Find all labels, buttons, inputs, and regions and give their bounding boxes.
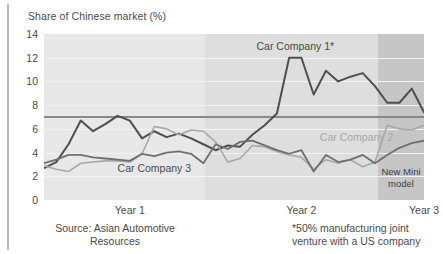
y-tick-label-6: 6 bbox=[16, 123, 38, 135]
y-tick-label-8: 8 bbox=[16, 99, 38, 111]
chart-title: Share of Chinese market (%) bbox=[28, 10, 166, 22]
left-rule-decoration bbox=[7, 4, 9, 250]
y-tick-label-4: 4 bbox=[16, 147, 38, 159]
series-label-2: Car Company 2 bbox=[320, 131, 394, 143]
x-tick-label-year-3: Year 3 bbox=[394, 204, 443, 216]
footnote-line1: *50% manufacturing joint bbox=[292, 222, 442, 235]
y-tick-label-12: 12 bbox=[16, 52, 38, 64]
footnote-line2: venture with a US company bbox=[292, 235, 442, 248]
series-line-1 bbox=[44, 58, 424, 168]
y-tick-label-14: 14 bbox=[16, 28, 38, 40]
source-note: Source: Asian Automotive Resources bbox=[40, 222, 190, 248]
source-note-line1: Source: Asian Automotive bbox=[40, 222, 190, 235]
footnote: *50% manufacturing joint venture with a … bbox=[292, 222, 442, 248]
new-mini-model-line2: model bbox=[378, 178, 424, 190]
series-label-1: Car Company 1* bbox=[256, 40, 334, 52]
x-tick-label-year-2: Year 2 bbox=[271, 204, 331, 216]
new-mini-model-annotation: New Mini model bbox=[378, 164, 424, 200]
source-note-line2: Resources bbox=[40, 235, 190, 248]
chart-figure: Share of Chinese market (%) New Mini mod… bbox=[0, 0, 443, 254]
series-line-3 bbox=[44, 141, 424, 172]
series-lines bbox=[44, 34, 424, 200]
plot-area: New Mini model bbox=[44, 34, 424, 200]
series-label-3: Car Company 3 bbox=[118, 162, 192, 174]
y-tick-label-2: 2 bbox=[16, 170, 38, 182]
new-mini-model-line1: New Mini bbox=[378, 166, 424, 178]
x-tick-label-year-1: Year 1 bbox=[100, 204, 160, 216]
y-tick-label-10: 10 bbox=[16, 75, 38, 87]
y-tick-label-0: 0 bbox=[16, 194, 38, 206]
